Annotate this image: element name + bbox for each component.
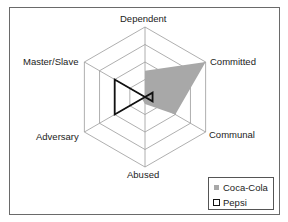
axis-label-communal: Communal: [209, 129, 255, 140]
legend-label: Coca-Cola: [223, 182, 268, 193]
axis-label-master-slave: Master/Slave: [23, 56, 78, 67]
axis-label-adversary: Adversary: [36, 131, 79, 142]
coca-cola-area: [142, 62, 206, 115]
legend: Coca-Cola Pepsi: [208, 177, 274, 210]
axis-label-abused: Abused: [127, 169, 159, 180]
legend-item-coca-cola: Coca-Cola: [213, 181, 268, 193]
axis-label-dependent: Dependent: [120, 13, 166, 24]
legend-item-pepsi: Pepsi: [213, 196, 247, 208]
radar-series: [115, 62, 206, 115]
coca-cola-swatch-icon: [214, 185, 219, 190]
legend-label: Pepsi: [223, 197, 247, 208]
axis-label-committed: Committed: [210, 56, 256, 67]
pepsi-swatch-icon: [213, 199, 220, 206]
